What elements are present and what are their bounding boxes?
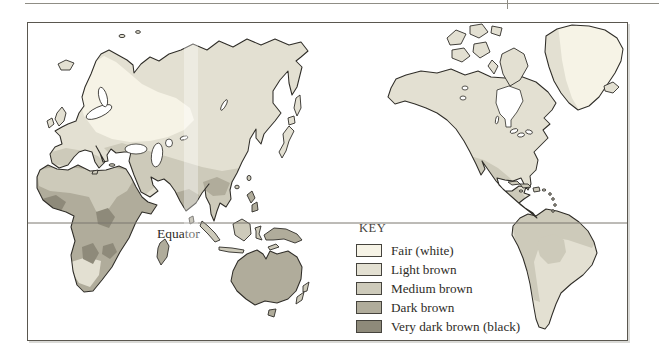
key-item-label: Light brown bbox=[391, 263, 457, 276]
japan-hokkaido bbox=[288, 116, 295, 125]
tasmania bbox=[268, 309, 276, 317]
great-bear-lake bbox=[462, 86, 468, 90]
philippines-south bbox=[252, 202, 258, 212]
crete bbox=[109, 164, 115, 167]
arctic-island-6 bbox=[488, 60, 498, 74]
key-title: KEY bbox=[359, 221, 586, 236]
key-item-label: Dark brown bbox=[391, 301, 454, 314]
key-swatch bbox=[356, 263, 382, 276]
key-swatch bbox=[356, 301, 382, 314]
key-panel: KEY Fair (white) Light brown Medium brow… bbox=[356, 221, 586, 339]
madagascar bbox=[157, 239, 169, 265]
borneo bbox=[233, 219, 251, 241]
sicily bbox=[92, 170, 98, 174]
new-zealand-north bbox=[303, 282, 309, 292]
scanned-figure-page: Equator KEY Fair (white) Light brown Med… bbox=[0, 0, 659, 359]
philippines-north bbox=[247, 191, 255, 203]
key-swatch bbox=[356, 282, 382, 295]
key-item-label: Medium brown bbox=[391, 282, 473, 295]
iceland-left bbox=[58, 60, 74, 70]
antilles-2 bbox=[552, 198, 555, 201]
black-sea bbox=[125, 144, 147, 154]
cuba-west bbox=[508, 181, 520, 185]
jamaica bbox=[519, 190, 523, 192]
great-britain bbox=[55, 107, 66, 126]
key-item: Fair (white) bbox=[356, 244, 586, 257]
arctic-island-2 bbox=[470, 24, 488, 38]
taiwan bbox=[247, 175, 251, 180]
arctic-island-3 bbox=[491, 26, 502, 36]
key-item: Very dark brown (black) bbox=[356, 320, 586, 333]
timor bbox=[268, 244, 279, 250]
new-guinea bbox=[264, 228, 302, 243]
aral-sea bbox=[166, 139, 173, 147]
landmass-north-america bbox=[388, 69, 556, 218]
key-items: Fair (white) Light brown Medium brown Da… bbox=[356, 244, 586, 333]
key-swatch bbox=[356, 320, 382, 333]
page-bottom-scan-line bbox=[0, 352, 659, 354]
new-zealand-south bbox=[296, 292, 304, 304]
antilles-1 bbox=[549, 193, 552, 196]
puerto-rico bbox=[542, 189, 546, 191]
arctic-island-5 bbox=[473, 42, 490, 58]
key-item-label: Very dark brown (black) bbox=[391, 320, 520, 333]
key-item: Light brown bbox=[356, 263, 586, 276]
antilles-3 bbox=[554, 204, 557, 207]
svalbard-1 bbox=[119, 34, 125, 37]
arctic-island-4 bbox=[452, 48, 470, 62]
sulawesi bbox=[255, 226, 262, 240]
svalbard-2 bbox=[136, 31, 141, 34]
key-swatch bbox=[356, 244, 382, 257]
japan-honshu bbox=[279, 126, 294, 158]
arctic-island-1 bbox=[447, 30, 466, 45]
ireland bbox=[47, 118, 54, 128]
sumatra bbox=[200, 221, 220, 242]
key-item: Dark brown bbox=[356, 301, 586, 314]
key-item-label: Fair (white) bbox=[391, 244, 454, 257]
hispaniola bbox=[533, 187, 540, 192]
sakhalin bbox=[294, 95, 301, 116]
java bbox=[219, 247, 244, 253]
antilles-4 bbox=[552, 210, 555, 213]
hainan bbox=[235, 185, 239, 189]
great-slave-lake bbox=[460, 96, 466, 100]
key-item: Medium brown bbox=[356, 282, 586, 295]
scan-light-band bbox=[184, 23, 198, 339]
